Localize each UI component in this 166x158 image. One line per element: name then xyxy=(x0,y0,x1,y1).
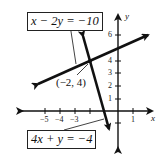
x-tick-label--4: −4 xyxy=(55,116,64,124)
y-tick-label-3: 3 xyxy=(108,69,112,77)
y-tick-label-6: 6 xyxy=(108,31,112,39)
y-tick-label-4: 4 xyxy=(108,57,112,65)
y-tick-label-2: 2 xyxy=(108,82,112,90)
equation-label-2: 4x + y = −4 xyxy=(27,130,96,149)
y-axis-label: y xyxy=(125,12,129,21)
equation-label-1: x − 2y = −10 xyxy=(27,12,103,31)
y-tick-label-1: 1 xyxy=(108,95,112,103)
line-4x-plus-y-eq-neg4 xyxy=(83,36,109,129)
leader-eq1 xyxy=(70,25,76,64)
x-tick-label--5: −5 xyxy=(40,116,49,124)
x-tick-label-1: 1 xyxy=(131,116,135,124)
x-axis-label: x xyxy=(151,114,155,123)
intersection-point xyxy=(88,59,92,63)
x-tick-label--3: −3 xyxy=(70,116,79,124)
line-x-minus-2y-eq-neg10 xyxy=(38,35,148,84)
intersection-label: (−2, 4) xyxy=(56,77,86,88)
